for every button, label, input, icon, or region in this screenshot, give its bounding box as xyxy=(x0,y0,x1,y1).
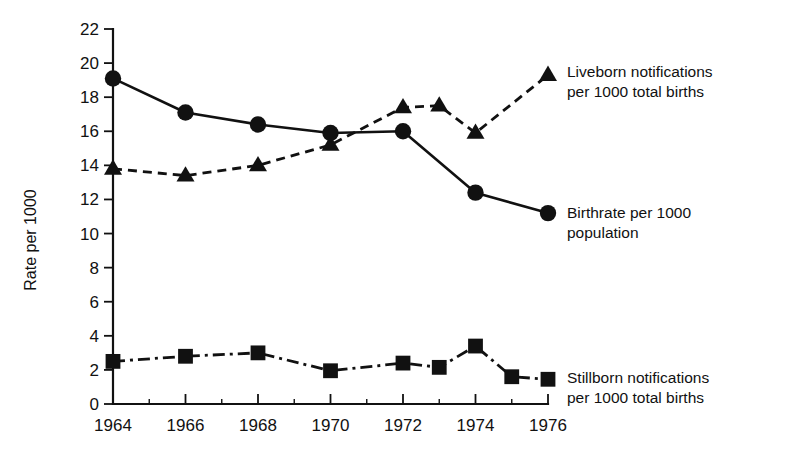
x-tick-label: 1976 xyxy=(529,416,567,435)
data-point-triangle xyxy=(539,66,557,81)
x-axis-ticks xyxy=(113,394,548,404)
data-point-square xyxy=(541,372,556,387)
y-tick-label: 10 xyxy=(80,225,99,244)
y-tick-label: 8 xyxy=(90,259,99,278)
data-point-circle xyxy=(322,125,338,141)
x-tick-label: 1970 xyxy=(312,416,350,435)
x-axis-tick-labels: 1964196619681970197219741976 xyxy=(94,416,567,435)
legend-entry-birthrate: Birthrate per 1000 population xyxy=(567,203,691,243)
data-point-square xyxy=(106,354,121,369)
data-point-triangle xyxy=(467,124,485,139)
data-point-square xyxy=(251,345,266,360)
y-tick-label: 22 xyxy=(80,20,99,39)
x-tick-label: 1964 xyxy=(94,416,132,435)
data-point-circle xyxy=(467,184,483,200)
data-point-circle xyxy=(540,205,556,221)
legend-liveborn-line1: Liveborn notifications xyxy=(567,62,713,82)
series-markers-group xyxy=(104,66,557,387)
x-tick-label: 1966 xyxy=(167,416,205,435)
data-point-triangle xyxy=(430,96,448,111)
data-point-circle xyxy=(250,116,266,132)
y-tick-label: 18 xyxy=(80,88,99,107)
y-tick-label: 0 xyxy=(90,395,99,414)
legend-entry-liveborn: Liveborn notifications per 1000 total bi… xyxy=(567,62,713,102)
y-axis-title: Rate per 1000 xyxy=(22,189,39,291)
legend-entry-stillborn: Stillborn notifications per 1000 total b… xyxy=(567,368,709,408)
data-point-circle xyxy=(177,104,193,120)
y-tick-label: 4 xyxy=(90,327,99,346)
legend-stillborn-line2: per 1000 total births xyxy=(567,388,709,408)
y-tick-label: 6 xyxy=(90,293,99,312)
legend-birthrate-line1: Birthrate per 1000 xyxy=(567,203,691,223)
y-tick-label: 16 xyxy=(80,122,99,141)
y-axis-tick-labels: 0246810121416182022 xyxy=(80,20,99,414)
x-tick-label: 1974 xyxy=(457,416,495,435)
chart-container: Rate per 1000 0246810121416182022 196419… xyxy=(0,0,788,466)
x-tick-label: 1968 xyxy=(239,416,277,435)
series-lines-group xyxy=(113,75,548,379)
x-tick-label: 1972 xyxy=(384,416,422,435)
legend-stillborn-line1: Stillborn notifications xyxy=(567,368,709,388)
y-tick-label: 2 xyxy=(90,361,99,380)
data-point-square xyxy=(178,349,193,364)
y-tick-label: 20 xyxy=(80,54,99,73)
data-point-square xyxy=(468,339,483,354)
legend-liveborn-line2: per 1000 total births xyxy=(567,82,713,102)
data-point-square xyxy=(323,363,338,378)
data-point-circle xyxy=(105,70,121,86)
data-point-square xyxy=(504,369,519,384)
data-point-square xyxy=(432,360,447,375)
y-tick-label: 14 xyxy=(80,156,99,175)
data-point-triangle xyxy=(394,98,412,113)
data-point-square xyxy=(396,356,411,371)
data-point-circle xyxy=(395,123,411,139)
data-point-triangle xyxy=(104,159,122,174)
legend-birthrate-line2: population xyxy=(567,223,691,243)
y-tick-label: 12 xyxy=(80,190,99,209)
